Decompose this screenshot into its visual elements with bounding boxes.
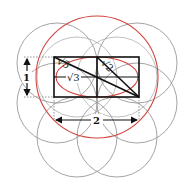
root-two-three-five-diagram: √5 √3 √2 1 2 bbox=[0, 0, 192, 185]
label-sqrt3: √3 bbox=[67, 72, 80, 83]
label-height-1: 1 bbox=[23, 72, 30, 83]
label-width-2: 2 bbox=[93, 115, 100, 126]
